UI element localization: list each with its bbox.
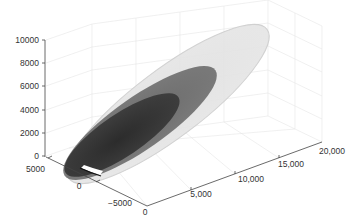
x-tick-label: 0 — [143, 207, 148, 217]
y-tick-label: 5000 — [26, 164, 45, 174]
z-axis-labels: 10000 8000 6000 4000 2000 0 — [15, 35, 39, 161]
x-tick-label: 20,000 — [319, 146, 345, 156]
y-tick-label: −5000 — [108, 198, 132, 208]
z-tick-label: 0 — [34, 151, 39, 161]
x-tick-label: 10,000 — [238, 174, 264, 184]
x-axis-labels: 0 5,000 10,000 15,000 20,000 — [143, 146, 346, 217]
z-tick-label: 6000 — [20, 81, 39, 91]
3d-ellipsoid-chart: 10000 8000 6000 4000 2000 0 5000 0 −5000… — [0, 0, 361, 221]
z-tick-label: 4000 — [20, 105, 39, 115]
z-tick-label: 2000 — [20, 128, 39, 138]
y-tick-label: 0 — [77, 181, 82, 191]
z-tick-label: 8000 — [20, 58, 39, 68]
x-tick-label: 5,000 — [190, 189, 212, 199]
x-tick-label: 15,000 — [278, 159, 304, 169]
z-tick-label: 10000 — [15, 35, 39, 45]
z-ticks — [42, 40, 45, 156]
